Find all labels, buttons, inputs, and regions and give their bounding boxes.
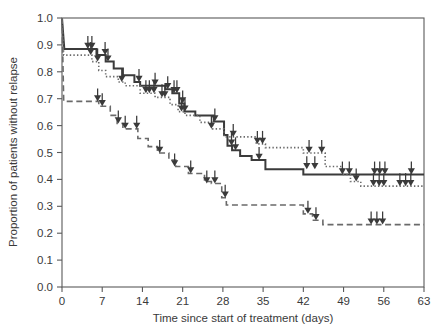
x-tick-label: 28: [216, 295, 229, 307]
y-axis-title: Proportion of patients without relapse: [7, 57, 19, 247]
x-tick-label: 56: [377, 295, 390, 307]
x-tick-label: 42: [297, 295, 310, 307]
x-tick-label: 49: [337, 295, 350, 307]
y-tick-label: 0.9: [37, 39, 53, 51]
y-tick-label: 0.5: [37, 147, 53, 159]
y-tick-label: 0.8: [37, 66, 53, 78]
survival-curve-chart: 0.00.10.20.30.40.50.60.70.80.91.0 071421…: [0, 0, 445, 335]
y-tick-label: 0.4: [37, 173, 54, 185]
x-tick-label: 63: [418, 295, 431, 307]
y-tick-label: 0.3: [37, 200, 53, 212]
y-tick-label: 0.1: [37, 254, 53, 266]
x-tick-label: 21: [176, 295, 189, 307]
x-tick-label: 14: [136, 295, 149, 307]
x-tick-label: 35: [257, 295, 270, 307]
y-tick-label: 0.0: [37, 281, 53, 293]
y-tick-label: 1.0: [37, 12, 53, 24]
kaplan-meier-figure: 0.00.10.20.30.40.50.60.70.80.91.0 071421…: [0, 0, 445, 335]
chart-background: [0, 0, 445, 335]
x-axis-title: Time since start of treatment (days): [153, 312, 334, 324]
x-tick-label: 0: [59, 295, 65, 307]
x-tick-label: 7: [99, 295, 105, 307]
y-tick-label: 0.7: [37, 93, 53, 105]
y-tick-label: 0.2: [37, 227, 53, 239]
y-tick-label: 0.6: [37, 120, 53, 132]
